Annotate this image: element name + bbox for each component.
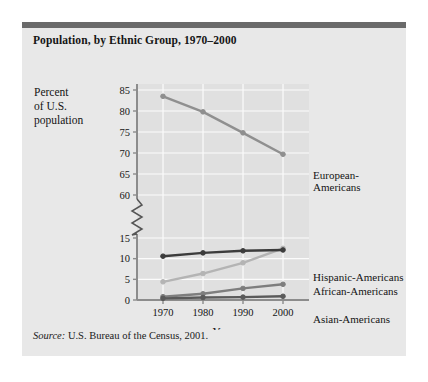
source-text: U.S. Bureau of the Census, 2001. — [68, 330, 208, 341]
y-axis-title-line: population — [34, 114, 83, 127]
series-data-point — [161, 254, 166, 259]
figure-top-rule — [22, 22, 406, 28]
series-label-hispanic-americans: Hispanic-Americans — [313, 271, 403, 283]
series-data-point — [241, 261, 246, 266]
y-tick-label: 70 — [120, 148, 131, 159]
series-label-native-americans: Native Americans — [313, 327, 392, 330]
series-label-asian-americans: Asian-Americans — [313, 313, 390, 325]
population-line-chart: 606570758085051015Percentof U.S.populati… — [22, 48, 406, 330]
series-data-point — [281, 282, 286, 287]
y-tick-label: 5 — [125, 274, 130, 285]
series-label-european-americans: Americans — [313, 181, 361, 193]
y-tick-label: 85 — [120, 85, 131, 96]
series-label-european-americans: European- — [313, 169, 359, 181]
y-tick-label: 80 — [120, 106, 131, 117]
series-data-point — [161, 296, 166, 301]
series-data-point — [241, 286, 246, 291]
figure-title: Population, by Ethnic Group, 1970–2000 — [33, 34, 237, 46]
series-data-point — [161, 280, 166, 285]
series-data-point — [281, 294, 286, 299]
series-data-point — [281, 152, 286, 157]
series-data-point — [201, 295, 206, 300]
x-axis-title: Year — [212, 326, 233, 330]
y-axis-title-line: Percent — [34, 86, 69, 98]
y-tick-label: 60 — [120, 190, 131, 201]
series-data-point — [281, 248, 286, 253]
series-data-point — [201, 271, 206, 276]
figure-card: Population, by Ethnic Group, 1970–2000 6… — [22, 22, 406, 356]
y-tick-label: 15 — [120, 233, 131, 244]
series-data-point — [241, 131, 246, 136]
source-label: Source: — [33, 330, 65, 341]
y-tick-label: 10 — [120, 253, 131, 264]
series-label-african-americans: African-Americans — [313, 285, 398, 297]
y-tick-label: 65 — [120, 169, 131, 180]
x-tick-label: 1970 — [153, 307, 174, 318]
series-data-point — [161, 94, 166, 99]
series-data-point — [201, 251, 206, 256]
y-tick-label: 0 — [125, 295, 130, 306]
series-data-point — [201, 110, 206, 115]
x-tick-label: 1990 — [233, 307, 254, 318]
x-tick-label: 1980 — [193, 307, 214, 318]
y-tick-label: 75 — [120, 127, 131, 138]
series-data-point — [241, 295, 246, 300]
series-data-point — [241, 249, 246, 254]
x-tick-label: 2000 — [273, 307, 294, 318]
y-axis-title-line: of U.S. — [34, 100, 67, 112]
source-note: Source: U.S. Bureau of the Census, 2001. — [33, 330, 208, 341]
